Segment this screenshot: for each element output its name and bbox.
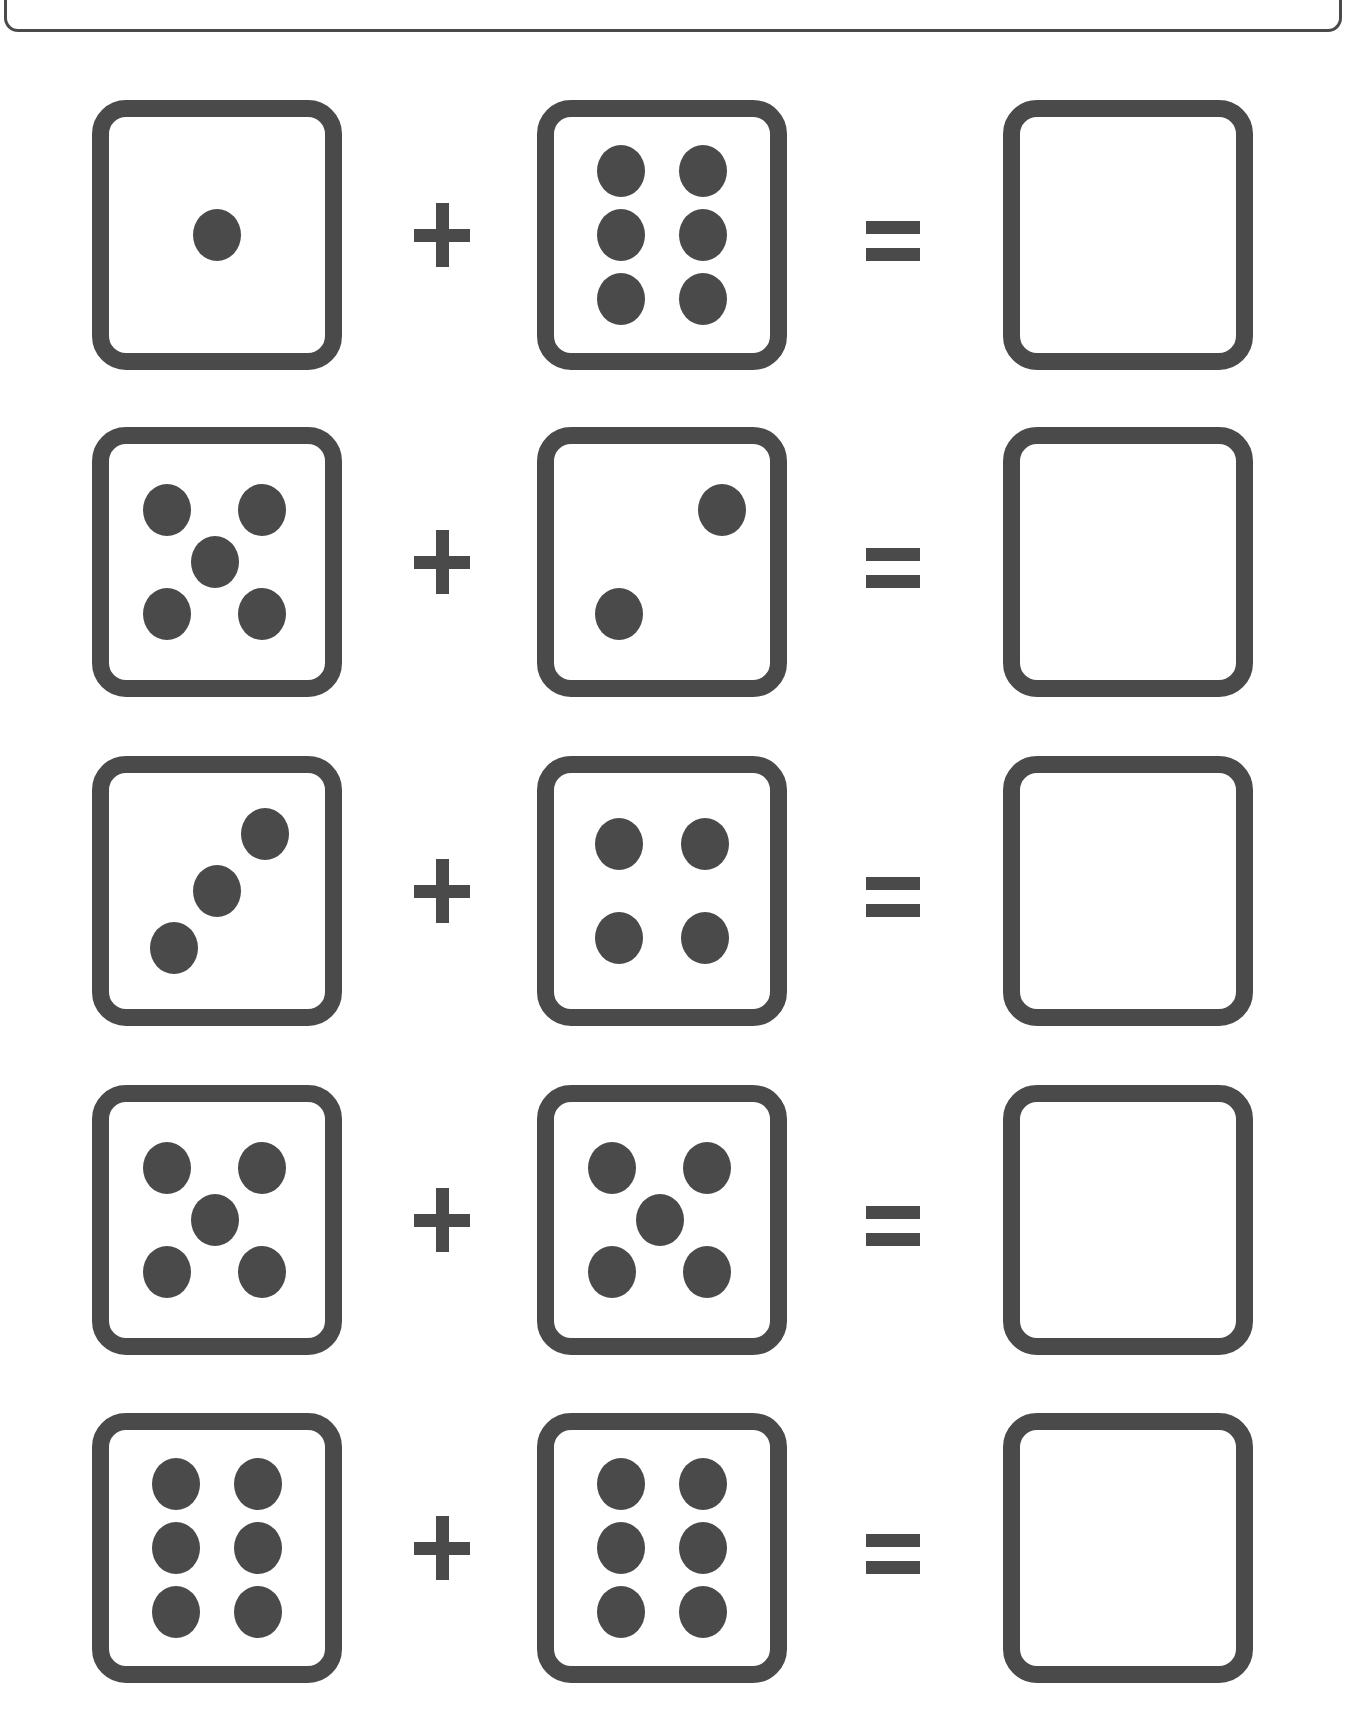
- header-frame: [4, 0, 1342, 32]
- die-pip: [679, 273, 727, 325]
- equals-icon: [866, 530, 922, 594]
- die-pip: [679, 1586, 727, 1638]
- die-pip: [143, 1246, 191, 1298]
- die-pip: [597, 145, 645, 197]
- right-die-2: [537, 427, 787, 697]
- die-pip: [152, 1458, 200, 1510]
- die-pip: [681, 912, 729, 964]
- die-pip: [679, 1522, 727, 1574]
- die-pip: [238, 484, 286, 536]
- left-die-5: [92, 1085, 342, 1355]
- die-pip: [143, 1142, 191, 1194]
- equals-icon: [866, 1516, 922, 1580]
- die-pip: [234, 1586, 282, 1638]
- die-pip: [679, 145, 727, 197]
- die-pip: [681, 818, 729, 870]
- left-die-3: [92, 756, 342, 1026]
- right-die-6: [537, 1413, 787, 1683]
- answer-box[interactable]: [1003, 1413, 1253, 1683]
- die-pip: [191, 1194, 239, 1246]
- die-pip: [597, 1458, 645, 1510]
- die-pip: [595, 588, 643, 640]
- die-pip: [588, 1142, 636, 1194]
- die-pip: [679, 209, 727, 261]
- equals-icon: [866, 1188, 922, 1252]
- die-pip: [597, 1522, 645, 1574]
- die-pip: [234, 1522, 282, 1574]
- die-pip: [193, 209, 241, 261]
- plus-icon: [414, 203, 470, 267]
- equals-icon: [866, 203, 922, 267]
- die-pip: [143, 588, 191, 640]
- die-pip: [234, 1458, 282, 1510]
- left-die-5: [92, 427, 342, 697]
- die-pip: [193, 865, 241, 917]
- die-pip: [595, 818, 643, 870]
- die-pip: [683, 1246, 731, 1298]
- right-die-4: [537, 756, 787, 1026]
- die-pip: [597, 273, 645, 325]
- right-die-5: [537, 1085, 787, 1355]
- die-pip: [698, 484, 746, 536]
- plus-icon: [414, 859, 470, 923]
- die-pip: [636, 1194, 684, 1246]
- answer-box[interactable]: [1003, 756, 1253, 1026]
- left-die-1: [92, 100, 342, 370]
- equals-icon: [866, 859, 922, 923]
- die-pip: [679, 1458, 727, 1510]
- die-pip: [595, 912, 643, 964]
- answer-box[interactable]: [1003, 1085, 1253, 1355]
- die-pip: [152, 1586, 200, 1638]
- answer-box[interactable]: [1003, 100, 1253, 370]
- die-pip: [152, 1522, 200, 1574]
- left-die-6: [92, 1413, 342, 1683]
- plus-icon: [414, 1188, 470, 1252]
- die-pip: [238, 1142, 286, 1194]
- die-pip: [143, 484, 191, 536]
- die-pip: [238, 1246, 286, 1298]
- die-pip: [241, 808, 289, 860]
- right-die-6: [537, 100, 787, 370]
- plus-icon: [414, 530, 470, 594]
- die-pip: [683, 1142, 731, 1194]
- plus-icon: [414, 1516, 470, 1580]
- answer-box[interactable]: [1003, 427, 1253, 697]
- die-pip: [191, 536, 239, 588]
- die-pip: [597, 209, 645, 261]
- die-pip: [597, 1586, 645, 1638]
- die-pip: [150, 922, 198, 974]
- die-pip: [238, 588, 286, 640]
- die-pip: [588, 1246, 636, 1298]
